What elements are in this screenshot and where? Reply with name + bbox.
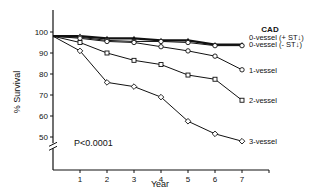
x-tick-label: 1 xyxy=(78,175,83,184)
y-tick-label: 50 xyxy=(39,133,48,142)
diamond-marker xyxy=(212,131,218,137)
circle-marker xyxy=(240,68,244,72)
diamond-marker xyxy=(131,84,137,90)
series-label: 1-vessel xyxy=(249,66,277,75)
square-marker xyxy=(159,63,163,67)
circle-marker xyxy=(213,54,217,58)
circle-marker xyxy=(105,39,109,43)
x-tick-label: 3 xyxy=(132,175,137,184)
x-tick-label: 2 xyxy=(105,175,110,184)
x-axis-label: Year xyxy=(151,179,169,189)
square-marker xyxy=(186,73,190,77)
square-marker xyxy=(213,77,217,81)
circle-marker xyxy=(159,39,163,43)
circle-marker xyxy=(186,49,190,53)
p-value-annotation: P<0.0001 xyxy=(74,138,113,148)
series-label: 3-vessel xyxy=(249,137,277,146)
x-tick-label: 7 xyxy=(240,175,245,184)
circle-marker xyxy=(213,43,217,47)
y-tick-label: 70 xyxy=(39,91,48,100)
y-tick-label: 60 xyxy=(39,112,48,121)
series-lines xyxy=(53,34,245,144)
y-tick-label: 80 xyxy=(39,70,48,79)
series-label: 2-vessel xyxy=(249,96,277,105)
survival-chart: 50607080901001234567 0-vessel (+ ST↓)0-v… xyxy=(0,0,330,194)
square-marker xyxy=(78,41,82,45)
circle-marker xyxy=(132,40,136,44)
square-marker xyxy=(132,58,136,62)
diamond-marker xyxy=(239,138,245,144)
series-labels: 0-vessel (+ ST↓)0-vessel (- ST↓)1-vessel… xyxy=(249,33,304,146)
circle-marker xyxy=(240,43,244,47)
circle-marker xyxy=(78,36,82,40)
legend-title: CAD xyxy=(261,25,279,34)
y-axis-label: % Survival xyxy=(12,71,22,114)
circle-marker xyxy=(186,40,190,44)
x-tick-label: 6 xyxy=(213,175,218,184)
circle-marker xyxy=(159,45,163,49)
y-tick-label: 90 xyxy=(39,49,48,58)
square-marker xyxy=(240,98,244,102)
square-marker xyxy=(105,51,109,55)
series-label: 0-vessel (- ST↓) xyxy=(249,40,302,49)
y-tick-label: 100 xyxy=(35,28,49,37)
x-tick-label: 5 xyxy=(186,175,191,184)
